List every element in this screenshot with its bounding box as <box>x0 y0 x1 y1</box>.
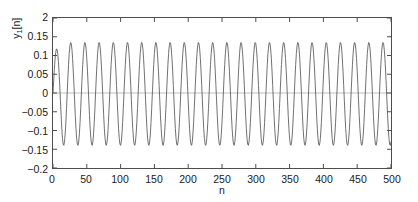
y-axis-tick-label: −0.15 <box>21 145 48 156</box>
y-axis-tick-labels: 20.150.10.050−0.05−0.1−0.15−0.2 <box>0 17 48 169</box>
x-axis-tick-label: 300 <box>247 174 265 185</box>
x-axis-title-text: n <box>219 184 225 196</box>
y-axis-tick-label: 0.15 <box>28 31 48 42</box>
x-axis-tick-label: 150 <box>145 174 163 185</box>
y-axis-tick-label: −0.1 <box>27 126 48 137</box>
chart-figure: y1[n] 20.150.10.050−0.05−0.1−0.15−0.2 05… <box>0 0 418 202</box>
y-axis-tick-label: 2 <box>42 12 48 23</box>
x-axis-title: n <box>52 185 392 196</box>
y-axis-tick-label: 0 <box>42 88 48 99</box>
y-axis-tick-label: −0.2 <box>27 164 48 175</box>
plot-svg <box>53 18 391 168</box>
x-axis-tick-label: 450 <box>349 174 367 185</box>
x-axis-tick-label: 0 <box>49 174 55 185</box>
y-axis-tick-label: 0.1 <box>33 50 48 61</box>
x-axis-tick-label: 400 <box>315 174 333 185</box>
y-axis-tick-label: −0.05 <box>21 107 48 118</box>
x-axis-tick-label: 50 <box>80 174 92 185</box>
x-axis-tick-label: 500 <box>383 174 401 185</box>
x-axis-tick-label: 350 <box>281 174 299 185</box>
y-axis-tick-label: 0.05 <box>28 69 48 80</box>
x-axis-tick-label: 100 <box>111 174 129 185</box>
x-axis-tick-label: 250 <box>213 174 231 185</box>
plot-area <box>52 17 392 169</box>
data-series-line <box>53 43 391 146</box>
x-axis-tick-label: 200 <box>179 174 197 185</box>
